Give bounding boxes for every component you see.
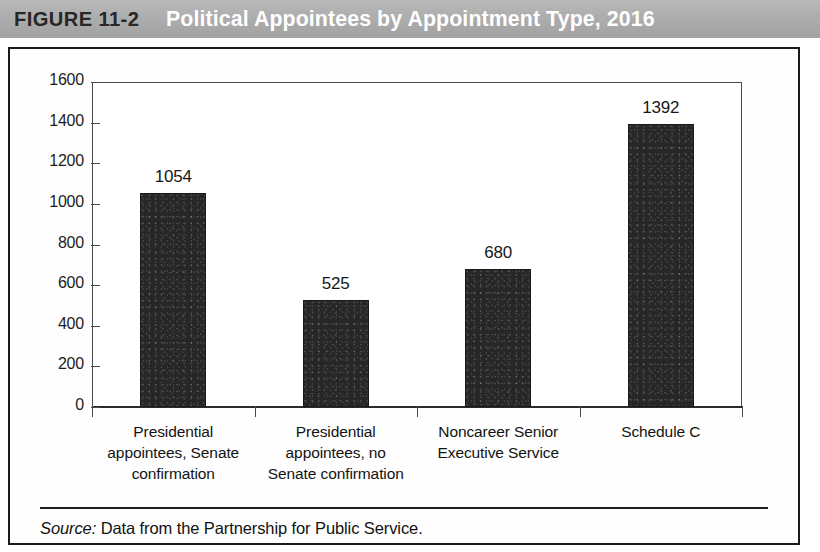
bar	[303, 300, 369, 407]
y-axis-tick-mark	[91, 366, 100, 367]
y-axis-tick-mark	[91, 326, 100, 327]
bar-value-label: 525	[286, 274, 386, 294]
x-axis-tick-mark	[580, 406, 581, 417]
y-axis-tick-mark	[91, 123, 100, 124]
bar-value-label: 680	[448, 243, 548, 263]
source-note: Source: Data from the Partnership for Pu…	[40, 519, 423, 538]
x-axis-tick-mark	[742, 406, 743, 417]
x-axis-category-label: Presidentialappointees, Senateconfirmati…	[92, 421, 255, 484]
x-axis-category-label: Presidentialappointees, noSenate confirm…	[255, 421, 418, 484]
bar-value-label: 1392	[611, 98, 711, 118]
x-axis-category-label: Schedule C	[580, 421, 743, 442]
figure-number: FIGURE 11-2	[14, 7, 139, 31]
bar	[140, 193, 206, 407]
x-axis-category-label: Noncareer SeniorExecutive Service	[417, 421, 580, 463]
x-axis-tick-mark	[255, 406, 256, 417]
x-axis-tick-mark	[417, 406, 418, 417]
y-axis-tick-label: 1200	[49, 152, 84, 170]
x-axis-category-label-line: Schedule C	[580, 421, 743, 442]
chart-region: 16001400120010008006004002000 1054525680…	[10, 49, 798, 494]
y-axis-tick-label: 600	[58, 274, 84, 292]
x-axis-category-label-line: Presidential	[92, 421, 255, 442]
x-axis-category-label-line: Executive Service	[417, 442, 580, 463]
x-axis-category-label-line: confirmation	[92, 463, 255, 484]
bar	[628, 124, 694, 407]
y-axis-tick-label: 800	[58, 234, 84, 252]
y-axis-tick-label: 1000	[49, 193, 84, 211]
y-axis-tick-label: 0	[75, 396, 84, 414]
x-axis-tick-mark	[92, 406, 93, 417]
x-axis-category-label-line: Senate confirmation	[255, 463, 418, 484]
source-label: Source:	[40, 519, 96, 537]
y-axis-tick-label: 200	[58, 355, 84, 373]
figure-header-banner: FIGURE 11-2 Political Appointees by Appo…	[0, 0, 820, 38]
y-axis-tick-mark	[91, 204, 100, 205]
y-axis-tick-label: 1600	[49, 71, 84, 89]
y-axis-tick-mark	[91, 245, 100, 246]
x-axis-category-label-line: Presidential	[255, 421, 418, 442]
y-axis-tick-label: 400	[58, 315, 84, 333]
y-axis-tick-mark	[91, 163, 100, 164]
y-axis-tick-mark	[91, 82, 100, 83]
y-axis-tick-mark	[91, 285, 100, 286]
x-axis-category-label-line: appointees, no	[255, 442, 418, 463]
source-text-value: Data from the Partnership for Public Ser…	[96, 519, 422, 537]
figure-card: 16001400120010008006004002000 1054525680…	[8, 47, 800, 545]
bar	[465, 269, 531, 407]
x-axis-category-label-line: appointees, Senate	[92, 442, 255, 463]
source-divider	[40, 507, 768, 509]
bar-value-label: 1054	[123, 167, 223, 187]
x-axis-category-label-line: Noncareer Senior	[417, 421, 580, 442]
figure-title: Political Appointees by Appointment Type…	[166, 6, 655, 32]
y-axis-tick-label: 1400	[49, 112, 84, 130]
